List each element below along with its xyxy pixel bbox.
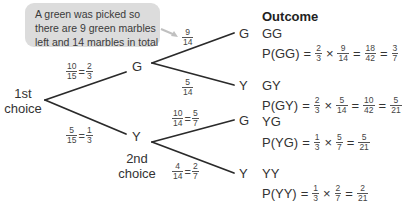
node-first-y: Y xyxy=(132,130,141,144)
first-choice-line2: choice xyxy=(3,101,43,116)
node-yy: Y xyxy=(239,167,248,181)
fraction: 1014 xyxy=(172,109,183,128)
fraction: 514 xyxy=(182,78,193,97)
outcome-gy-name: GY xyxy=(262,79,281,93)
prob-gy: 514 xyxy=(182,78,193,97)
fraction: 23 xyxy=(86,62,93,81)
prob-yg: 1014 = 57 xyxy=(172,109,199,128)
callout-line-1: A green was picked so xyxy=(35,7,154,21)
prob-first-g: 1015 = 23 xyxy=(66,62,93,81)
callout-arrow-icon xyxy=(161,29,178,37)
node-gy: Y xyxy=(239,79,248,93)
node-first-g: G xyxy=(132,60,142,74)
fraction: 27 xyxy=(192,162,199,181)
node-yg: G xyxy=(239,114,249,128)
fraction: 914 xyxy=(182,28,193,47)
prob-first-y: 515 = 13 xyxy=(66,126,93,145)
second-choice-line1: 2nd xyxy=(112,151,162,166)
second-choice-line2: choice xyxy=(112,166,162,181)
fraction: 515 xyxy=(66,126,77,145)
outcome-gy-equation: P(GY)= 23 × 514 = 1042 = 521 xyxy=(262,96,402,115)
outcome-yg-equation: P(YG)= 13 × 57 = 521 xyxy=(262,133,370,152)
prob-yy: 414 = 27 xyxy=(172,162,199,181)
outcome-yg-name: YG xyxy=(262,115,281,129)
first-choice-label: 1st choice xyxy=(3,86,43,116)
second-choice-label: 2nd choice xyxy=(112,151,162,181)
callout-line-2: there are 9 green marbles xyxy=(35,21,154,35)
prob-gg: 914 xyxy=(182,28,193,47)
outcome-gg-equation: P(GG)= 23 × 914 = 1842 = 37 xyxy=(262,44,398,63)
outcome-yy-equation: P(YY)= 13 × 27 = 221 xyxy=(262,184,368,203)
fraction: 13 xyxy=(86,126,93,145)
outcome-yy-name: YY xyxy=(262,167,279,181)
outcome-gg-name: GG xyxy=(262,27,282,41)
first-choice-line1: 1st xyxy=(3,86,43,101)
node-gg: G xyxy=(239,27,249,41)
outcome-title: Outcome xyxy=(262,9,318,24)
callout-line-3: left and 14 marbles in total xyxy=(35,35,154,49)
fraction: 57 xyxy=(192,109,199,128)
fraction: 1015 xyxy=(66,62,77,81)
fraction: 414 xyxy=(172,162,183,181)
callout-note: A green was picked so there are 9 green … xyxy=(25,3,160,47)
